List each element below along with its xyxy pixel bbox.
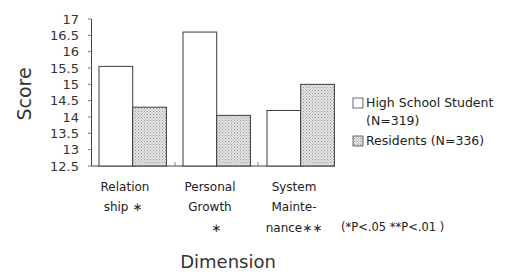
y-axis-label: Score xyxy=(13,67,35,120)
category-label-line: Growth xyxy=(188,200,231,214)
legend: High School Student (N=319) Residents (N… xyxy=(353,95,493,148)
y-tick-label: 15.5 xyxy=(50,61,79,76)
y-tick-label: 13.5 xyxy=(50,126,79,141)
category-labels: Relationship ∗PersonalGrowth∗SystemMaint… xyxy=(101,180,323,235)
y-tick-label: 14.5 xyxy=(50,93,79,108)
category-label-line: System xyxy=(272,180,317,194)
y-axis: 12.51313.51414.51515.51616.517 xyxy=(50,12,91,174)
y-tick-label: 13 xyxy=(62,142,79,157)
y-tick-label: 17 xyxy=(62,12,79,27)
category-label-line: Relation xyxy=(101,180,150,194)
y-tick-label: 14 xyxy=(62,110,79,125)
category-label-line: Personal xyxy=(184,180,235,194)
bar-chart: Score 12.51313.51414.51515.51616.517 Rel… xyxy=(0,0,509,280)
y-tick-label: 16.5 xyxy=(50,28,79,43)
category-label-line: Mainte- xyxy=(271,200,316,214)
y-tick-label: 16 xyxy=(62,44,79,59)
bar-residents-1 xyxy=(217,115,251,166)
legend-label-residents: Residents (N=336) xyxy=(366,133,484,148)
legend-swatch-high-school xyxy=(353,98,363,108)
category-label-line: nance∗∗ xyxy=(266,221,323,235)
significance-note: (*P<.05 **P<.01 ) xyxy=(341,220,444,234)
category-label-line: ∗ xyxy=(211,221,221,235)
legend-label-high-school: High School Student xyxy=(366,95,493,110)
bar-high-school-2 xyxy=(267,110,301,166)
y-tick-label: 15 xyxy=(62,77,79,92)
y-tick-label: 12.5 xyxy=(50,159,79,174)
bar-high-school-1 xyxy=(183,32,217,166)
bar-residents-0 xyxy=(133,107,167,166)
legend-label-high-school-n: (N=319) xyxy=(366,113,419,128)
bar-high-school-0 xyxy=(99,66,133,166)
x-axis-label: Dimension xyxy=(180,251,276,272)
bars-group xyxy=(99,32,334,166)
category-label-line: ship ∗ xyxy=(104,200,143,214)
legend-swatch-residents xyxy=(353,136,363,146)
bar-residents-2 xyxy=(301,84,335,166)
